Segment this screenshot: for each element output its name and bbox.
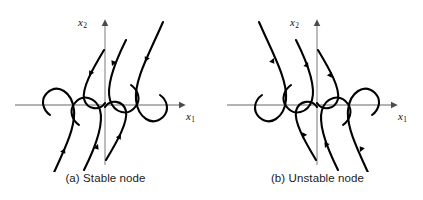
panel-stable-node: x2 x1 (a) Stable node (0, 0, 211, 200)
phase-plot-stable (0, 0, 211, 172)
flow-arrow-icon (303, 61, 310, 68)
trajectory-1 (136, 22, 167, 121)
trajectory-4 (43, 89, 74, 172)
trajectory-4-mirror (348, 89, 379, 172)
panel-unstable-node: x2 x1 (b) Unstable node (212, 0, 423, 200)
panel-caption-b: (b) Unstable node (212, 172, 423, 184)
trajectory-group-upper (84, 22, 167, 121)
trajectory-6 (105, 102, 126, 160)
phase-portrait-figure: x2 x1 (a) Stable node (0, 0, 423, 200)
axes-group (15, 25, 180, 165)
y-axis-label: x2 (78, 16, 87, 28)
trajectory-1-mirror (255, 22, 286, 121)
trajectory-3-mirror (317, 50, 338, 108)
phase-plot-unstable (212, 0, 423, 172)
x-axis-label: x1 (398, 110, 407, 122)
panel-caption-a: (a) Stable node (0, 172, 211, 184)
trajectory-3 (84, 50, 105, 108)
trajectory-6-mirror (296, 102, 317, 160)
axes-group (227, 25, 392, 165)
y-axis-label: x2 (290, 16, 299, 28)
x-axis-label: x1 (186, 110, 195, 122)
